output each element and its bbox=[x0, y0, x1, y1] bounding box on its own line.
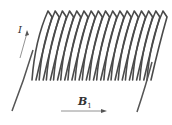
current-label: I bbox=[18, 25, 22, 35]
coil-loop bbox=[61, 11, 81, 80]
coil-loop bbox=[46, 11, 66, 80]
coil-loop bbox=[118, 11, 138, 80]
coil-loops bbox=[32, 11, 167, 80]
left-lead-wire bbox=[12, 50, 33, 111]
coil-loop bbox=[32, 11, 52, 80]
coil-loop bbox=[68, 11, 88, 80]
field-label: B1 bbox=[78, 96, 92, 110]
coil-loop bbox=[125, 11, 145, 80]
coil-loop bbox=[82, 11, 102, 80]
coil-loop bbox=[104, 11, 124, 80]
coil-loop bbox=[97, 11, 117, 80]
coil-loop bbox=[111, 11, 131, 80]
coil-loop bbox=[54, 11, 74, 80]
coil-loop bbox=[75, 11, 95, 80]
coil-loop bbox=[39, 11, 59, 80]
coil-loop bbox=[90, 11, 110, 80]
